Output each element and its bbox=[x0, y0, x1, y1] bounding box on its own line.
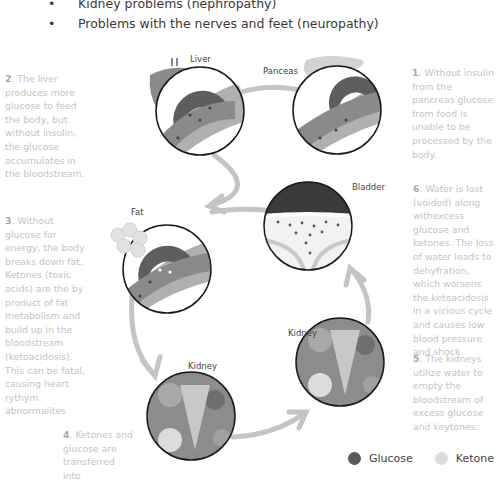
label-bladder: Bladder bbox=[352, 182, 385, 192]
label-liver: Liver bbox=[190, 54, 211, 64]
label-kidney-bottom: Kidney bbox=[188, 361, 217, 371]
arrow-kidney-to-kidney bbox=[233, 413, 305, 437]
label-kidney-right: Kidney bbox=[288, 328, 317, 338]
note-3: 3. Without glucose for energy, the body … bbox=[5, 214, 87, 418]
note-2: 2. The liver produces more glucose to fe… bbox=[5, 72, 87, 181]
note-1: 1. Without insulin from the pancreas glu… bbox=[412, 66, 496, 161]
arrow-liver-to-fat bbox=[212, 155, 238, 205]
pancreas-vessel-circle bbox=[290, 60, 390, 165]
legend-glucose: Glucose bbox=[348, 452, 413, 465]
legend-label: Ketone bbox=[456, 452, 494, 465]
glucose-swatch-icon bbox=[348, 452, 361, 465]
arrow-bladder-to-fat bbox=[212, 209, 265, 212]
note-6: 6. Water is lost (voided) along withexce… bbox=[413, 182, 497, 359]
note-4: 4. Ketones and glucose are transferred i… bbox=[63, 428, 133, 482]
legend-label: Glucose bbox=[369, 452, 413, 465]
label-pancreas: Panceas bbox=[263, 66, 298, 76]
bladder-circle bbox=[262, 180, 354, 275]
note-5: 5. The kidneys utilize water to empty th… bbox=[413, 352, 497, 434]
label-fat: Fat bbox=[131, 207, 144, 217]
ketone-swatch-icon bbox=[435, 452, 448, 465]
legend-ketone: Ketone bbox=[435, 452, 494, 465]
legend: Glucose Ketone bbox=[348, 452, 499, 465]
